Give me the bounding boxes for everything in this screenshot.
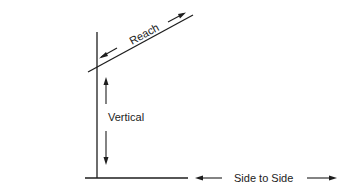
vertical-label: Vertical (108, 111, 144, 123)
reach-diagram: Reach Vertical Side to Side (0, 0, 353, 191)
side-arrow-right (307, 176, 337, 181)
vertical-arrow-down (104, 131, 109, 165)
side-arrow-left (195, 176, 222, 181)
reach-label: Reach (127, 21, 161, 47)
side-to-side-label: Side to Side (234, 172, 293, 184)
reach-line (88, 15, 193, 72)
reach-arrow-left (99, 48, 117, 59)
vertical-arrow-up (104, 77, 109, 104)
